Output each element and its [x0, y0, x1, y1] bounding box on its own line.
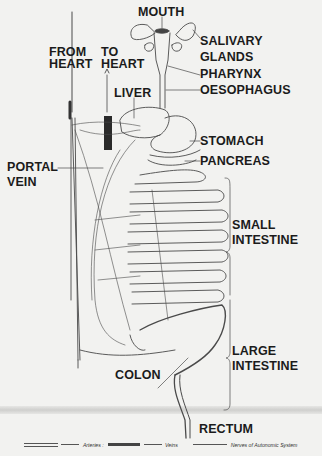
label-portal-vein-2: VEIN: [7, 176, 37, 189]
legend: Arteries : Veins Nerves of Autonomic Sys…: [24, 441, 297, 448]
mesenteric-vessels: [72, 122, 140, 345]
label-mouth: MOUTH: [138, 6, 184, 19]
legend-arteries: Arteries :: [83, 442, 104, 448]
label-large-intestine-1: LARGE: [232, 345, 276, 358]
label-liver: LIVER: [114, 87, 151, 100]
label-pharynx: PHARYNX: [200, 68, 261, 81]
nerve-swatch-icon: [193, 444, 227, 445]
vena-cava-vessel: [104, 69, 112, 150]
vein-swatch-icon: [108, 443, 140, 446]
small-intestine-loops: [128, 170, 228, 320]
label-small-intestine-1: SMALL: [232, 219, 276, 232]
label-pancreas: PANCREAS: [200, 155, 270, 168]
label-from-heart-2: HEART: [49, 58, 93, 71]
label-to-heart-2: HEART: [101, 58, 145, 71]
label-stomach: STOMACH: [200, 135, 264, 148]
label-salivary-1: SALIVARY: [200, 35, 263, 48]
label-large-intestine-2: INTESTINE: [232, 360, 298, 373]
label-small-intestine-2: INTESTINE: [232, 234, 298, 247]
label-rectum: RECTUM: [199, 423, 253, 436]
legend-dash: [144, 444, 162, 445]
legend-nerves: Nerves of Autonomic System: [231, 442, 298, 448]
digestive-diagram: MOUTH FROM HEART TO HEART SALIVARY GLAND…: [0, 0, 322, 456]
label-oesophagus: OESOPHAGUS: [200, 84, 291, 97]
legend-veins: Veins: [165, 442, 178, 448]
artery-swatch-icon: [24, 443, 58, 447]
liver-stomach: [120, 107, 200, 165]
legend-dash: [61, 444, 79, 445]
label-salivary-2: GLANDS: [200, 51, 253, 64]
label-portal-vein-1: PORTAL: [7, 161, 58, 174]
label-colon: COLON: [115, 369, 161, 382]
